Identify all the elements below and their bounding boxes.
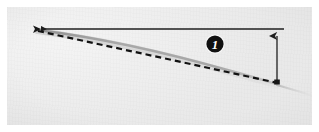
callout-badge-label: 1 <box>212 37 219 52</box>
figure-root: 1 <box>0 0 319 132</box>
annotation-overlay: 1 <box>0 0 319 132</box>
beam-shadow-tail <box>277 85 314 96</box>
callout-badge-1: 1 <box>205 34 224 53</box>
deflection-arrow-base-marker <box>274 80 280 85</box>
